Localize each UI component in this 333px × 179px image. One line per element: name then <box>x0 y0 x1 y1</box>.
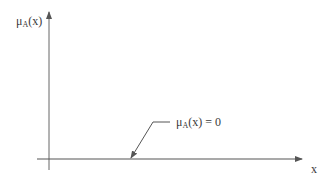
y-label-rest: (x) <box>28 14 42 28</box>
x-axis-label: x <box>311 163 317 175</box>
y-axis-label: μA(x) <box>16 15 42 31</box>
annotation-leader-line <box>131 122 170 158</box>
membership-function-plot <box>0 0 333 179</box>
annotation-rest: (x) = 0 <box>188 115 221 129</box>
annotation-label: μA(x) = 0 <box>176 116 221 132</box>
